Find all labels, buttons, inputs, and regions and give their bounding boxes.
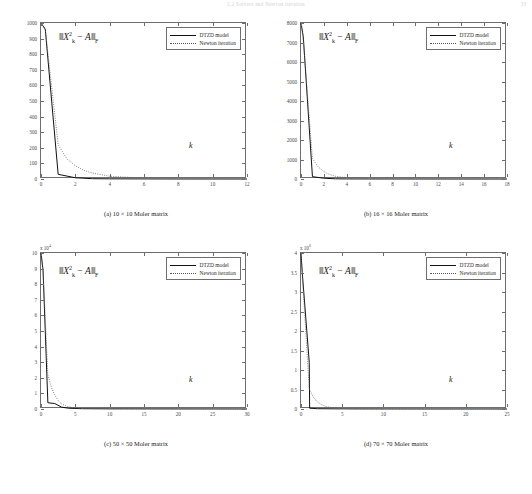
- x-tick: [415, 23, 416, 26]
- y-tick: [41, 148, 44, 149]
- x-tick: [393, 23, 394, 26]
- y-tick: [502, 312, 505, 313]
- y-tick-label: 5: [34, 328, 37, 334]
- caption-a: (a) 10 × 10 Moler matrix: [14, 210, 258, 217]
- y-tick-label: 100: [29, 160, 37, 166]
- x-tick-label: 12: [436, 181, 441, 187]
- y-tick: [242, 23, 245, 24]
- y-tick: [502, 331, 505, 332]
- y-tick: [502, 140, 505, 141]
- curves-a: [41, 23, 247, 179]
- x-tick: [110, 404, 111, 407]
- axes-d: ‖‖X2k − A‖‖F k DTZD model Newton iterati…: [300, 252, 506, 408]
- x-tick-label: 25: [504, 411, 509, 417]
- y-tick: [242, 117, 245, 118]
- x-tick-label: 25: [210, 411, 215, 417]
- x-tick-label: 18: [504, 181, 509, 187]
- y-tick: [41, 300, 44, 301]
- x-tick: [383, 253, 384, 256]
- x-tick: [461, 23, 462, 26]
- x-tick: [41, 174, 42, 177]
- curve-newton: [41, 23, 247, 179]
- y-tick-label: 3: [34, 359, 37, 365]
- x-tick: [213, 23, 214, 26]
- x-tick: [425, 253, 426, 256]
- y-tick: [502, 273, 505, 274]
- y-tick: [242, 163, 245, 164]
- subplot-b: ‖‖X2k − A‖‖F k DTZD model Newton iterati…: [274, 14, 518, 200]
- x-tick: [247, 404, 248, 407]
- y-exponent-c: x 104: [40, 243, 51, 251]
- y-tick: [301, 23, 304, 24]
- y-tick: [301, 62, 304, 63]
- y-tick: [301, 390, 304, 391]
- x-tick-label: 4: [108, 181, 111, 187]
- y-tick: [41, 179, 44, 180]
- x-tick-label: 0: [300, 411, 303, 417]
- y-tick-label: 7: [34, 297, 37, 303]
- y-tick-label: 300: [29, 129, 37, 135]
- y-tick-label: 1000: [287, 157, 297, 163]
- x-tick-label: 8: [177, 181, 180, 187]
- y-tick: [301, 160, 304, 161]
- running-head: 2.2 Solvers and Newton iteration: [0, 1, 532, 7]
- x-tick: [213, 253, 214, 256]
- y-tick: [41, 269, 44, 270]
- x-tick: [213, 404, 214, 407]
- x-tick-label: 10: [413, 181, 418, 187]
- y-tick: [41, 253, 44, 254]
- y-tick: [502, 23, 505, 24]
- x-tick: [415, 174, 416, 177]
- x-tick: [247, 253, 248, 256]
- y-tick-label: 1: [34, 390, 37, 396]
- x-tick: [347, 174, 348, 177]
- y-tick: [242, 300, 245, 301]
- x-tick: [41, 404, 42, 407]
- y-tick-label: 2: [294, 328, 297, 334]
- y-tick-label: 800: [29, 51, 37, 57]
- y-tick: [41, 70, 44, 71]
- y-tick: [242, 54, 245, 55]
- subplot-c: x 104 ‖‖X2k − A‖‖F k DTZD model Newton i…: [14, 244, 258, 430]
- x-tick: [466, 404, 467, 407]
- x-tick-label: 5: [74, 411, 77, 417]
- page-number: 33: [521, 1, 526, 7]
- curve-dtzd: [41, 253, 247, 409]
- x-tick: [301, 174, 302, 177]
- x-tick: [178, 253, 179, 256]
- x-tick: [370, 174, 371, 177]
- y-tick-label: 4: [294, 250, 297, 256]
- y-tick: [301, 370, 304, 371]
- x-tick: [301, 404, 302, 407]
- figure-grid: ‖‖X2k − A‖‖F k DTZD model Newton iterati…: [0, 12, 532, 482]
- x-tick-label: 16: [482, 181, 487, 187]
- x-tick-label: 10: [210, 181, 215, 187]
- y-tick: [301, 273, 304, 274]
- y-tick-label: 1000: [27, 20, 37, 26]
- y-tick: [41, 163, 44, 164]
- y-tick: [301, 253, 304, 254]
- y-tick-label: 0: [34, 176, 37, 182]
- plot-area-d: x 106 ‖‖X2k − A‖‖F k DTZD model Newton i…: [274, 244, 518, 430]
- caption-b: (b) 16 × 16 Moler matrix: [274, 210, 518, 217]
- y-tick-label: 0: [34, 406, 37, 412]
- x-tick: [438, 174, 439, 177]
- caption-d: (d) 70 × 70 Moler matrix: [274, 440, 518, 447]
- x-tick-label: 5: [341, 411, 344, 417]
- x-tick-label: 20: [463, 411, 468, 417]
- x-tick: [110, 23, 111, 26]
- y-tick: [502, 160, 505, 161]
- y-tick: [502, 101, 505, 102]
- y-tick-label: 4000: [287, 98, 297, 104]
- curve-newton: [41, 253, 247, 409]
- x-tick: [144, 23, 145, 26]
- y-tick: [41, 284, 44, 285]
- y-tick: [502, 370, 505, 371]
- y-exponent-d: x 106: [300, 243, 311, 251]
- y-tick-label: 200: [29, 145, 37, 151]
- curve-dtzd: [41, 23, 247, 179]
- x-tick: [144, 253, 145, 256]
- x-tick-label: 15: [422, 411, 427, 417]
- x-tick-label: 20: [176, 411, 181, 417]
- x-tick-label: 10: [381, 411, 386, 417]
